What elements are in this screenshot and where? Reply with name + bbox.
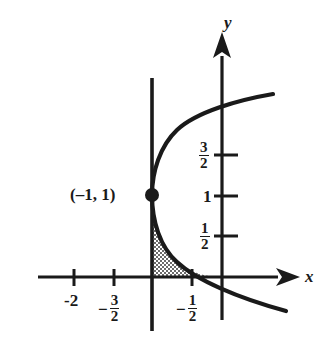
figure-container: y x (–1, 1) 3 2 1 1 2 -2 − 3 2 − [0,0,326,346]
fraction-numerator: 3 [110,293,120,308]
x-axis-label: x [305,268,314,285]
x-tick-label-neg-three-halves: − 3 2 [98,294,119,326]
fraction-numerator: 1 [200,221,210,236]
graph-canvas [0,0,326,346]
y-tick-label-one-half: 1 2 [200,222,210,254]
x-tick-label-neg-two: -2 [64,292,78,309]
shaded-region [152,195,222,277]
fraction-denominator: 2 [188,308,198,324]
fraction-numerator: 3 [199,140,209,155]
fraction-denominator: 2 [199,155,209,171]
vertex-label: (–1, 1) [70,186,115,203]
y-tick-label-one: 1 [203,188,212,205]
vertex-point [145,188,159,202]
y-tick-label-three-halves: 3 2 [199,141,209,173]
y-axis-ticks [214,155,238,236]
fraction-numerator: 1 [188,293,198,308]
minus-sign: − [176,301,186,318]
fraction-denominator: 2 [110,308,120,324]
y-axis-label: y [224,14,232,31]
x-tick-label-neg-one-half: − 1 2 [176,294,197,326]
minus-sign: − [98,301,108,318]
fraction-denominator: 2 [200,236,210,252]
